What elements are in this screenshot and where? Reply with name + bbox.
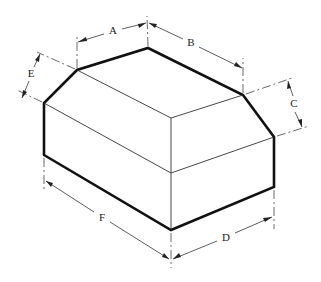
label-f: F: [99, 211, 105, 223]
extension-line-e-lower: [17, 90, 42, 102]
arrowhead-c-bottom: [298, 119, 302, 127]
top-front-edge: [77, 70, 171, 118]
outline-edge: [44, 48, 274, 230]
arrowhead-a-right: [138, 23, 146, 28]
arrowhead-d-right: [263, 217, 272, 222]
label-a: A: [109, 24, 117, 36]
top-right-edge: [171, 95, 243, 118]
label-c: C: [290, 97, 297, 109]
arrowhead-b-left: [149, 23, 157, 28]
label-b: B: [187, 36, 194, 48]
extension-line-c-upper: [246, 78, 292, 94]
chamfer-right-lower-edge: [171, 137, 274, 173]
label-d: D: [222, 231, 230, 243]
arrowhead-b-right: [234, 62, 242, 68]
arrowhead-c-top: [287, 81, 291, 89]
drawing-canvas: A B C D E F: [0, 0, 321, 282]
dimension-line-f-2: [110, 222, 169, 259]
extension-line-top: [147, 16, 148, 46]
chamfer-left-lower-edge: [44, 103, 171, 173]
arrowhead-f-left: [46, 181, 53, 187]
arrowhead-d-left: [173, 253, 181, 259]
label-e: E: [28, 67, 35, 79]
arrowhead-a-left: [78, 37, 87, 42]
extension-line-c-lower: [277, 126, 309, 136]
dimension-line-f-1: [46, 181, 94, 212]
extension-line-e-upper: [37, 52, 75, 69]
arrowhead-e-top: [35, 54, 40, 62]
arrowhead-f-right: [162, 253, 169, 259]
